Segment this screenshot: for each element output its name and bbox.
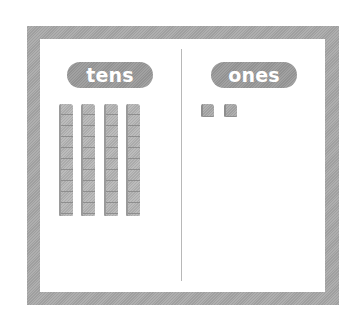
ten-rod — [59, 104, 73, 216]
place-value-frame: tens ones — [27, 26, 339, 305]
unit-cube — [224, 104, 237, 117]
tens-label: tens — [67, 62, 153, 88]
place-value-board: tens ones — [40, 39, 325, 292]
unit-cube — [201, 104, 214, 117]
ten-rod — [126, 104, 140, 216]
ones-label: ones — [211, 62, 297, 88]
ten-rod — [104, 104, 118, 216]
ten-rod — [81, 104, 95, 216]
column-divider — [181, 49, 182, 281]
